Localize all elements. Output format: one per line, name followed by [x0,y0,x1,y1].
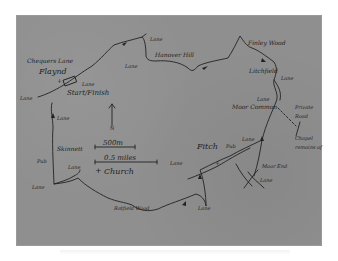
label-chapel-remains: Chapel remains of [295,134,323,152]
label-lane-sw: Lane [32,185,44,190]
label-lane-sw-small: Lane [68,165,80,170]
church-legend-symbol: + [95,167,102,175]
label-skinnett: Skinnett [57,146,83,152]
label-lane-fitch-w: Lane [170,161,182,166]
lane-crossing-1 [236,164,252,186]
route-path-south [51,103,262,211]
private-road [278,108,296,126]
direction-arrow [260,136,264,141]
label-lane-west2: Lane [57,116,69,121]
label-moor-common: Moor Common [232,104,277,110]
label-private-road: Private Road [295,103,315,121]
label-lane-hanover: Lane [125,64,137,69]
label-lane-common: Lane [257,97,269,102]
label-start-finish: Start/Finish [67,90,109,97]
route-path-north [142,34,146,37]
map-photo: Chequers Lane Flaynd + Lane Start/Finish… [17,16,321,245]
label-finley-wood: Finley Wood [248,40,286,46]
north-label: N [110,126,114,131]
church-symbol-fitch: + [215,160,220,166]
label-moor-end: Moor End [262,164,287,169]
scale-label-metric: 500m [103,140,123,147]
church-legend-label: Church [104,168,134,176]
direction-arrow [261,58,266,62]
scale-label-imperial: 0.5 miles [104,155,136,162]
label-lane-south: Lane [198,206,210,211]
label-lane-fitch-e: Lane [242,137,254,142]
label-fitch: Fitch [197,143,218,151]
label-lane-moor-end: Lane [260,178,272,183]
direction-arrow [182,201,186,206]
photo-edge-shadow [60,250,290,255]
label-lane-start: Lane [82,82,94,87]
church-symbol-flaynd: + [57,78,62,84]
label-lane-north: Lane [150,37,162,42]
label-pub-fitch: Pub [226,144,236,149]
label-lane-east: Lane [281,76,293,81]
direction-arrow [202,66,208,70]
label-lane-west: Lane [20,96,32,101]
label-flaynd: Flaynd [39,68,67,76]
label-hanover-hill: Hanover Hill [155,52,194,58]
label-chequers-lane: Chequers Lane [27,58,73,64]
label-ratfield-wood: Ratfield Wood [114,206,150,211]
label-pub-west: Pub [37,159,47,164]
label-litchfield: Litchfield [249,68,278,74]
